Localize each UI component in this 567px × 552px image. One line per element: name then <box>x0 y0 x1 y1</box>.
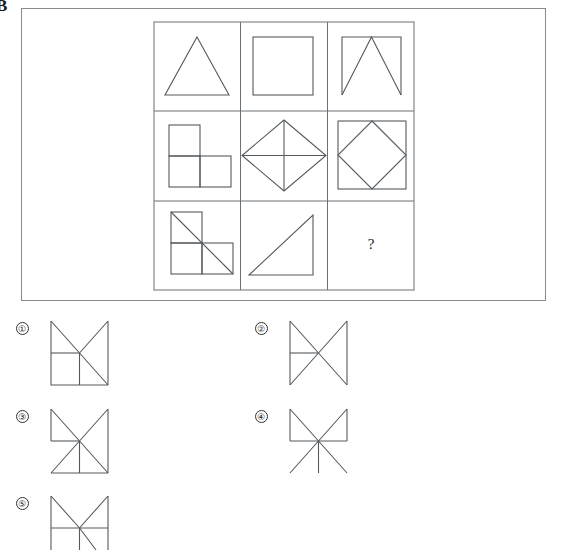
question-mark-text: ? <box>368 236 375 252</box>
matrix-cell-1-triangle <box>165 37 229 95</box>
options-area: ① ② <box>0 305 567 547</box>
option-3-number: ③ <box>16 410 29 423</box>
option-1-label: ① <box>14 321 30 337</box>
matrix-figure: ? <box>153 21 415 291</box>
matrix-cell-8-right-triangle <box>249 215 313 275</box>
matrix-cell-4-l-tromino <box>169 125 231 187</box>
option-1-number: ① <box>16 322 29 335</box>
option-1-figure <box>34 317 114 393</box>
matrix-cell-9-question: ? <box>368 236 375 252</box>
matrix-cell-7-l-tromino-diagonal <box>171 212 233 274</box>
option-2-number: ② <box>255 322 268 335</box>
stem-frame: ? <box>21 8 546 301</box>
option-4-figure <box>273 405 353 481</box>
corner-mark: B <box>0 0 8 16</box>
option-3-figure <box>34 405 114 481</box>
option-3-label: ③ <box>14 409 30 425</box>
option-2-label: ② <box>253 321 269 337</box>
option-4-label: ④ <box>253 409 269 425</box>
matrix-cell-6-square-diamond <box>338 121 406 189</box>
option-4-number: ④ <box>255 410 268 423</box>
matrix-cell-2-square <box>253 37 313 95</box>
option-5-label: ⑤ <box>14 496 30 512</box>
option-2-figure <box>273 317 353 393</box>
option-5-number: ⑤ <box>16 497 29 510</box>
matrix-cell-3-open-square-v <box>342 37 401 95</box>
matrix-cell-5-diamond-cross <box>242 120 326 191</box>
option-5-figure <box>34 492 114 552</box>
